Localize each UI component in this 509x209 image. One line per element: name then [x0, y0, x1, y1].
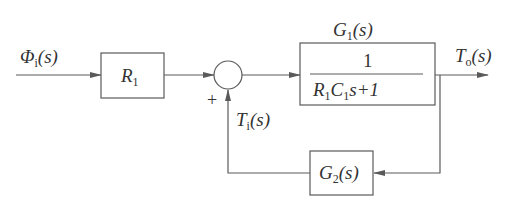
input-label: Φi(s) — [20, 46, 58, 70]
feedback-signal-label: Ti(s) — [236, 109, 270, 133]
block-g2-label: G2(s) — [319, 162, 359, 186]
block-g1: G1(s) 1 R1C1s+1 — [300, 19, 435, 105]
output-label: To(s) — [455, 45, 492, 69]
summing-junction — [214, 61, 242, 89]
block-g2: G2(s) — [310, 151, 373, 195]
input-signal: Φi(s) — [16, 46, 101, 75]
g1-numerator: 1 — [363, 50, 373, 71]
block-diagram: Φi(s) R1 + G1(s) 1 R1C1s+1 To(s) G2 — [0, 0, 509, 209]
block-g1-title: G1(s) — [333, 19, 373, 43]
feedback-return-arrow — [228, 90, 310, 173]
block-r1: R1 — [101, 53, 164, 98]
plus-sign: + — [207, 90, 217, 110]
